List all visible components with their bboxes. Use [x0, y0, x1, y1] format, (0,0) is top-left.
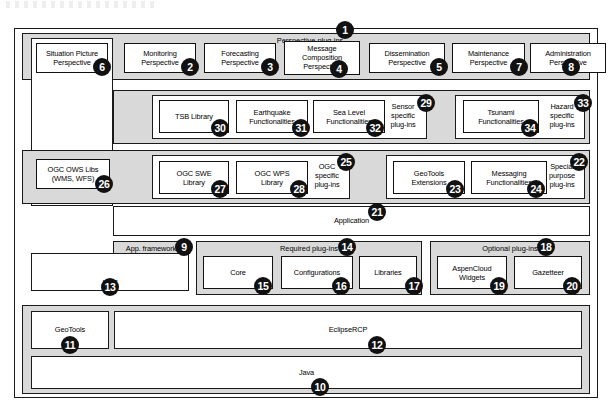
callout-16: 16	[332, 277, 350, 295]
geotools-layer-label: GeoTools	[32, 325, 108, 334]
callout-14: 14	[338, 238, 356, 256]
component-configurations-label: Configurations	[282, 268, 352, 277]
callout-34: 34	[521, 119, 539, 137]
architecture-diagram: Perspective plug-ins 1 Situation Picture…	[0, 0, 612, 412]
eclipse-rcp-layer-label: EclipseRCP	[115, 325, 581, 334]
callout-28: 28	[290, 180, 308, 198]
scan-artifact	[6, 1, 156, 8]
callout-8: 8	[562, 58, 580, 76]
callout-10: 10	[311, 378, 329, 396]
perspective-message-composition[interactable]: Message Composition Perspective	[284, 41, 360, 75]
callout-31: 31	[292, 119, 310, 137]
callout-25: 25	[337, 153, 355, 171]
callout-18: 18	[537, 238, 555, 256]
callout-27: 27	[211, 180, 229, 198]
component-core-label: Core	[204, 268, 272, 277]
component-gazetteer-label: Gazetteer	[515, 268, 581, 277]
callout-13: 13	[101, 278, 119, 296]
component-libraries-label: Libraries	[360, 268, 416, 277]
java-layer[interactable]: Java	[31, 356, 582, 389]
callout-15: 15	[254, 277, 272, 295]
callout-5: 5	[430, 58, 448, 76]
callout-21: 21	[368, 203, 386, 221]
callout-29: 29	[417, 94, 435, 112]
callout-1: 1	[336, 21, 354, 39]
callout-12: 12	[368, 336, 386, 354]
callout-23: 23	[446, 180, 464, 198]
callout-4: 4	[330, 60, 348, 78]
callout-11: 11	[61, 336, 79, 354]
callout-32: 32	[366, 119, 384, 137]
callout-7: 7	[510, 58, 528, 76]
callout-9: 9	[175, 238, 193, 256]
callout-26: 26	[95, 175, 113, 193]
callout-30: 30	[211, 119, 229, 137]
callout-2: 2	[181, 58, 199, 76]
callout-33: 33	[574, 94, 592, 112]
callout-24: 24	[527, 180, 545, 198]
application-layer	[113, 206, 590, 236]
callout-3: 3	[261, 58, 279, 76]
callout-22: 22	[570, 153, 588, 171]
callout-17: 17	[405, 277, 423, 295]
callout-20: 20	[563, 277, 581, 295]
callout-19: 19	[490, 277, 508, 295]
callout-6: 6	[93, 58, 111, 76]
java-layer-label: Java	[32, 368, 581, 377]
eclipse-rcp-layer[interactable]: EclipseRCP	[114, 311, 582, 349]
